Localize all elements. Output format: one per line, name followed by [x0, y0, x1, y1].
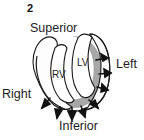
- arrow-inferior-left: [42, 98, 50, 108]
- orientation-label-superior: Superior: [30, 21, 77, 35]
- figure-container: 2: [0, 0, 144, 140]
- arrow-inferior-center-right: [79, 106, 86, 117]
- arrow-left-upper: [96, 54, 108, 61]
- orientation-label-right: Right: [2, 87, 31, 101]
- arrow-left-lower: [97, 84, 108, 92]
- arrow-inferior-center-left: [55, 107, 62, 118]
- orientation-label-left: Left: [116, 57, 137, 71]
- chamber-label-rv: RV: [52, 69, 66, 80]
- arrow-left-middle: [99, 69, 111, 77]
- arrow-inferior-right: [89, 100, 98, 108]
- chamber-label-lv: LV: [77, 57, 89, 68]
- orientation-label-inferior: Inferior: [59, 119, 98, 133]
